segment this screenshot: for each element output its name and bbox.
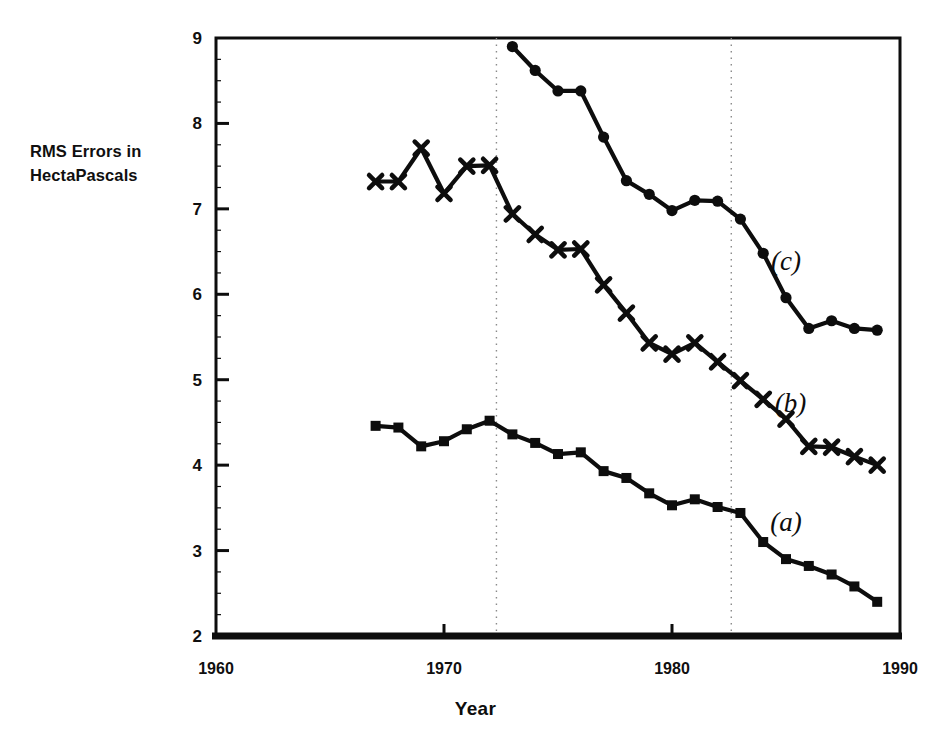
series-labels-layer: (a)(b)(c) <box>770 246 806 537</box>
data-point-marker <box>439 436 449 446</box>
y-tick-label: 8 <box>193 114 202 133</box>
y-axis-label: RMS Errors in HectaPascals <box>30 140 190 188</box>
data-point-marker <box>666 205 677 216</box>
data-point-marker <box>734 374 747 387</box>
series-label-c: (c) <box>771 246 801 276</box>
y-axis-label-line-2: HectaPascals <box>30 164 190 188</box>
data-point-marker <box>575 85 586 96</box>
y-tick-label: 6 <box>193 285 202 304</box>
data-point-marker <box>507 41 518 52</box>
data-series-layer <box>369 41 884 607</box>
data-point-marker <box>644 189 655 200</box>
x-axis-label: Year <box>0 698 951 720</box>
y-tick-label: 4 <box>193 456 203 475</box>
data-point-marker <box>621 175 632 186</box>
data-point-marker <box>826 315 837 326</box>
data-point-marker <box>529 228 542 241</box>
data-point-marker <box>758 537 768 547</box>
data-point-marker <box>620 307 633 320</box>
data-point-marker <box>530 65 541 76</box>
data-point-marker <box>713 502 723 512</box>
y-tick-label: 3 <box>193 542 202 561</box>
data-point-marker <box>507 429 517 439</box>
series-label-b: (b) <box>775 388 806 418</box>
data-point-marker <box>735 508 745 518</box>
y-tick-label: 9 <box>193 29 202 48</box>
series-label-a: (a) <box>770 507 801 537</box>
x-tick-label: 1970 <box>426 660 462 677</box>
x-tick-label: 1980 <box>654 660 690 677</box>
data-point-marker <box>576 447 586 457</box>
data-point-marker <box>690 494 700 504</box>
x-tick-label: 1960 <box>198 660 234 677</box>
data-point-marker <box>553 449 563 459</box>
data-point-marker <box>711 355 724 368</box>
data-point-marker <box>621 473 631 483</box>
data-point-marker <box>644 488 654 498</box>
data-point-marker <box>393 423 403 433</box>
data-point-marker <box>804 561 814 571</box>
axis-frame <box>212 38 902 636</box>
data-point-marker <box>827 569 837 579</box>
data-point-marker <box>416 441 426 451</box>
data-point-marker <box>781 554 791 564</box>
data-point-marker <box>599 466 609 476</box>
y-axis-ticks: 23456789 <box>193 29 229 646</box>
data-point-marker <box>371 421 381 431</box>
data-point-marker <box>872 597 882 607</box>
data-series-c <box>507 41 883 336</box>
y-tick-label: 5 <box>193 371 202 390</box>
y-tick-label: 2 <box>193 627 202 646</box>
data-point-marker <box>462 424 472 434</box>
data-point-marker <box>757 393 770 406</box>
data-point-marker <box>849 323 860 334</box>
y-tick-label: 7 <box>193 200 202 219</box>
data-series-b <box>369 142 884 472</box>
data-point-marker <box>758 248 769 259</box>
data-point-marker <box>530 438 540 448</box>
data-point-marker <box>780 292 791 303</box>
data-point-marker <box>667 500 677 510</box>
data-point-marker <box>803 323 814 334</box>
data-point-marker <box>689 195 700 206</box>
chart-figure: RMS Errors in HectaPascals 23456789 1960… <box>0 0 951 753</box>
data-point-marker <box>597 278 610 291</box>
reference-lines <box>496 38 731 636</box>
plot-canvas: 23456789 1960197019801990 (a)(b)(c) <box>0 0 951 753</box>
data-point-marker <box>849 581 859 591</box>
data-point-marker <box>872 325 883 336</box>
y-axis-label-line-1: RMS Errors in <box>30 140 190 164</box>
data-point-marker <box>712 196 723 207</box>
data-point-marker <box>598 131 609 142</box>
x-tick-label: 1990 <box>882 660 918 677</box>
data-point-marker <box>485 416 495 426</box>
data-point-marker <box>552 85 563 96</box>
data-point-marker <box>735 214 746 225</box>
x-axis-ticks: 1960197019801990 <box>198 624 918 677</box>
